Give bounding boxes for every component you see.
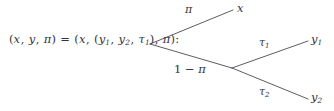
lhs-comma-1: , — [20, 32, 29, 46]
branch-label-tau1: τ1 — [259, 37, 270, 48]
branch-line-tau2 — [232, 68, 308, 99]
branch-label-one-minus-pi: 1 − π — [174, 64, 206, 76]
tau2-subscript: 2 — [265, 90, 269, 99]
lhs-expression: (x, y, π) = (x, (y1, y2, τ1), π): — [9, 34, 179, 46]
lhs-colon: : — [175, 32, 179, 46]
lhs-var-pi: π — [44, 32, 52, 46]
lhs-comma-6: , — [154, 32, 163, 46]
probability-tree-figure: (x, y, π) = (x, (y1, y2, τ1), π): π x 1 … — [0, 0, 334, 111]
branch-label-tau2: τ2 — [259, 86, 270, 97]
lhs-comma-3: , — [86, 32, 95, 46]
lhs-comma-2: , — [35, 32, 44, 46]
lhs-sub-tau1: 1 — [145, 38, 150, 47]
lhs-comma-4: , — [110, 32, 119, 46]
y2-symbol: y — [311, 90, 318, 104]
tau1-subscript: 1 — [265, 41, 269, 50]
y1-subscript: 1 — [318, 38, 323, 47]
tree-branches-svg — [0, 0, 334, 111]
lhs-var-tau1: τ — [138, 32, 144, 46]
lhs-var-x2: x — [79, 32, 86, 46]
lhs-sub-y1: 1 — [105, 38, 110, 47]
leaf-label-y2: y2 — [311, 92, 322, 104]
y2-subscript: 2 — [318, 96, 323, 105]
one-minus-pi-minus: − — [181, 62, 198, 76]
lhs-var-pi2: π — [163, 32, 171, 46]
y1-symbol: y — [311, 32, 318, 46]
leaf-label-y1: y1 — [311, 34, 322, 46]
lhs-sub-y2: 2 — [125, 38, 130, 47]
leaf-label-x: x — [237, 3, 244, 15]
one-minus-pi-pi: π — [198, 62, 206, 76]
lhs-equals: = — [56, 32, 74, 46]
branch-line-tau1 — [232, 41, 308, 68]
branch-label-pi: π — [185, 4, 192, 15]
